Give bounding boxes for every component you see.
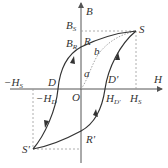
- ascending-branch: [33, 31, 136, 149]
- point-b-label: b: [94, 46, 100, 57]
- y-axis-label: B: [86, 6, 93, 17]
- bs-tick-label: BS: [66, 20, 76, 33]
- point-r-label: R: [84, 36, 91, 47]
- direction-arrow-icon: [93, 109, 98, 117]
- x-axis-label: H: [154, 74, 162, 85]
- point-s-prime-label: S': [22, 144, 30, 155]
- hs-tick-label: HS: [130, 93, 141, 106]
- point-s-label: S: [139, 24, 145, 35]
- neg-hd-tick-label: −HD: [36, 93, 56, 106]
- point-d-prime-label: D': [108, 74, 118, 85]
- direction-arrow-icon: [70, 56, 75, 64]
- neg-hs-tick-label: −HS: [4, 77, 23, 90]
- br-tick-label: BR: [66, 38, 77, 51]
- point-d-label: D: [48, 77, 56, 88]
- point-a-label: a: [84, 68, 90, 79]
- origin-label: O: [72, 92, 80, 103]
- hd-prime-tick-label: HD': [106, 93, 121, 106]
- hysteresis-diagram: B H O BS BR HS −HS −HD HD' S S' R R' D D…: [0, 0, 168, 168]
- point-r-prime-label: R': [86, 134, 95, 145]
